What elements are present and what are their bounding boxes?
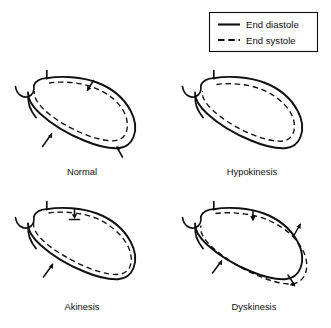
panel-caption-dyskinesis: Dyskinesis bbox=[232, 301, 277, 312]
anterior-wall-no-motion-arrow bbox=[70, 209, 80, 220]
anterior-wall-no-motion-arrow-head bbox=[72, 214, 77, 219]
panel-caption-normal: Normal bbox=[67, 166, 97, 177]
panel-dyskinesis: Dyskinesis bbox=[183, 202, 307, 313]
valve-notch-icon bbox=[16, 217, 34, 229]
inferior-wall-inward-arrow bbox=[43, 133, 53, 147]
valve-notch-icon bbox=[183, 86, 201, 98]
valve-notch-icon bbox=[183, 217, 201, 229]
end-diastole-outline bbox=[195, 77, 302, 148]
legend-label-end-systole: End systole bbox=[246, 35, 296, 46]
panel-normal: Normal bbox=[16, 71, 136, 178]
wall-motion-figure: End diastole End systole bbox=[0, 0, 331, 328]
panel-hypokinesis: Hypokinesis bbox=[183, 71, 303, 178]
valve-shoulder-left bbox=[34, 209, 47, 216]
lateral-wall-outward-arrow bbox=[295, 223, 301, 234]
wall-motion-diagram-canvas: End diastole End systole bbox=[0, 0, 331, 328]
valve-notch-icon bbox=[16, 86, 34, 98]
end-systole-outline bbox=[201, 213, 307, 284]
end-diastole-outline bbox=[28, 208, 135, 279]
legend-label-end-diastole: End diastole bbox=[246, 19, 299, 30]
inferior-wall-inward-arrow bbox=[44, 263, 54, 277]
panel-akinesis: Akinesis bbox=[16, 202, 136, 313]
valve-shoulder-left bbox=[34, 78, 47, 85]
end-diastole-outline bbox=[195, 208, 302, 279]
legend: End diastole End systole bbox=[210, 13, 318, 52]
inferior-wall-inward-arrow bbox=[213, 260, 223, 273]
valve-shoulder-left bbox=[201, 209, 214, 216]
end-systole-outline bbox=[34, 212, 132, 274]
panel-caption-akinesis: Akinesis bbox=[65, 301, 100, 312]
anterior-wall-inward-arrow-head bbox=[250, 216, 256, 222]
end-diastole-outline bbox=[28, 77, 135, 148]
valve-shoulder-left bbox=[201, 78, 214, 85]
panel-caption-hypokinesis: Hypokinesis bbox=[227, 166, 278, 177]
anterior-wall-inward-arrow bbox=[250, 211, 256, 222]
